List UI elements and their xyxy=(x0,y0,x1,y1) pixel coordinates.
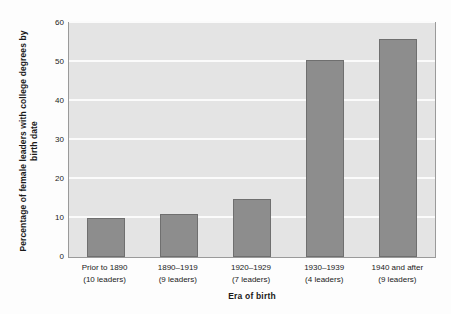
y-axis-tick-label: 10 xyxy=(40,213,64,222)
bar xyxy=(306,60,344,257)
bar xyxy=(379,39,417,257)
x-tick-era: 1890–1919 xyxy=(158,263,198,272)
x-tick-count: (9 leaders) xyxy=(351,274,443,286)
x-tick-era: Prior to 1890 xyxy=(82,263,128,272)
x-tick-era: 1940 and after xyxy=(372,263,424,272)
bar xyxy=(233,199,271,258)
bar-chart-figure: Percentage of female leaders with colleg… xyxy=(0,0,451,314)
y-axis-tick-label: 20 xyxy=(40,174,64,183)
x-tick-era: 1930–1939 xyxy=(304,263,344,272)
y-axis-tick-label: 60 xyxy=(40,18,64,27)
bar xyxy=(160,214,198,257)
y-axis-tick-label: 50 xyxy=(40,57,64,66)
y-axis-tick-label: 30 xyxy=(40,135,64,144)
x-axis-tick-labels: Prior to 1890(10 leaders)1890–1919(9 lea… xyxy=(68,262,436,290)
gridline xyxy=(69,21,435,23)
x-axis-title: Era of birth xyxy=(68,291,436,301)
y-axis-tick-label: 40 xyxy=(40,96,64,105)
y-axis-tick-label: 0 xyxy=(40,252,64,261)
x-axis-tick-label: 1940 and after(9 leaders) xyxy=(351,262,443,285)
x-tick-era: 1920–1929 xyxy=(231,263,271,272)
y-axis-tick-labels: 0102030405060 xyxy=(40,22,64,258)
plot-area xyxy=(68,22,436,258)
bar xyxy=(87,218,125,257)
